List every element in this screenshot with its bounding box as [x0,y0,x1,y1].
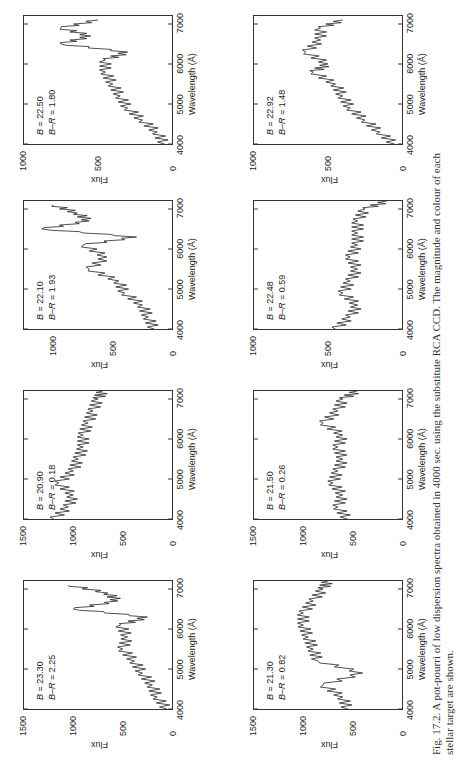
x-tick-label: 6000 [405,54,415,74]
y-tick-label: 0 [398,166,408,171]
x-tick-label: 5000 [405,659,415,679]
magnitude-annotation: B = 22.50 [35,96,45,135]
x-tick-label: 4000 [175,510,185,530]
x-tick-label: 6000 [405,239,415,259]
y-tick-label: 500 [118,531,128,546]
x-tick-label: 7000 [405,578,415,598]
x-tick-label: 7000 [405,388,415,408]
y-tick-label: 1000 [18,151,28,171]
y-tick-label: 0 [168,351,178,356]
magnitude-annotation: B = 22.10 [35,281,45,320]
spectrum-panel: 4000500060007000Wavelength (Å)10005000Fl… [245,190,445,370]
magnitude-annotation: B = 23.30 [35,661,45,700]
colour-annotation: B–R = 0.26 [277,465,287,510]
y-tick-label: 0 [168,166,178,171]
colour-annotation: B–R = 0.59 [277,275,287,320]
plot-area [253,15,403,145]
x-tick-label: 7000 [175,388,185,408]
colour-annotation: B–R = 1.80 [47,90,57,135]
x-tick-label: 4000 [405,510,415,530]
y-tick-label: 1000 [248,151,258,171]
y-tick-label: 500 [348,531,358,546]
y-tick-label: 500 [118,721,128,736]
y-axis-label: Flux [91,550,108,560]
spectrum-panel: 4000500060007000Wavelength (Å)1500100050… [245,380,445,560]
y-tick-label: 500 [93,156,103,171]
y-tick-label: 1500 [18,716,28,736]
colour-annotation: B–R = 1.48 [277,90,287,135]
x-axis-label: Wavelength (Å) [417,53,427,115]
x-tick-label: 6000 [175,619,185,639]
x-tick-label: 5000 [175,469,185,489]
y-axis-label: Flux [91,360,108,370]
y-tick-label: 0 [168,731,178,736]
figure: 4000500060007000Wavelength (Å)1500100050… [0,0,467,760]
y-axis-label: Flux [321,550,338,560]
y-tick-label: 0 [398,351,408,356]
x-tick-label: 5000 [405,469,415,489]
spectrum-panel: 4000500060007000Wavelength (Å)1500100050… [245,570,445,750]
x-tick-label: 4000 [175,320,185,340]
plot-area [253,200,403,330]
plot-area [23,390,173,520]
spectrum-panel: 4000500060007000Wavelength (Å)10005000Fl… [15,5,215,185]
y-tick-label: 500 [323,341,333,356]
plot-area [23,200,173,330]
x-tick-label: 5000 [175,94,185,114]
x-axis-label: Wavelength (Å) [187,238,197,300]
plot-area [23,15,173,145]
x-tick-label: 4000 [405,700,415,720]
colour-annotation: B–R = 2.25 [47,655,57,700]
y-tick-label: 0 [398,731,408,736]
x-tick-label: 7000 [175,578,185,598]
magnitude-annotation: B = 22.48 [265,281,275,320]
y-tick-label: 0 [398,541,408,546]
caption-line-2: stellar target are shown. [443,15,456,755]
x-axis-label: Wavelength (Å) [187,618,197,680]
plot-area [253,390,403,520]
y-tick-label: 1000 [48,336,58,356]
x-axis-label: Wavelength (Å) [417,428,427,490]
x-tick-label: 4000 [175,700,185,720]
y-tick-label: 500 [348,721,358,736]
y-tick-label: 500 [108,341,118,356]
y-axis-label: Flux [321,740,338,750]
x-tick-label: 5000 [175,659,185,679]
x-tick-label: 7000 [175,198,185,218]
magnitude-annotation: B = 21.50 [265,471,275,510]
magnitude-annotation: B = 21.30 [265,661,275,700]
x-axis-label: Wavelength (Å) [417,618,427,680]
y-tick-label: 1000 [298,526,308,546]
x-tick-label: 4000 [405,320,415,340]
spectrum-panel: 4000500060007000Wavelength (Å)10005000Fl… [245,5,445,185]
x-tick-label: 4000 [175,135,185,155]
colour-annotation: B–R = 1.93 [47,275,57,320]
y-tick-label: 500 [323,156,333,171]
y-tick-label: 1000 [68,526,78,546]
x-axis-label: Wavelength (Å) [187,53,197,115]
plot-area [253,580,403,710]
spectrum-panel: 4000500060007000Wavelength (Å)1500100050… [15,380,215,560]
x-tick-label: 7000 [405,13,415,33]
x-tick-label: 6000 [175,54,185,74]
y-tick-label: 1500 [18,526,28,546]
y-axis-label: Flux [91,175,108,185]
x-axis-label: Wavelength (Å) [187,428,197,490]
y-tick-label: 1500 [248,716,258,736]
y-tick-label: 1000 [298,716,308,736]
y-tick-label: 1500 [248,526,258,546]
y-axis-label: Flux [321,360,338,370]
x-tick-label: 4000 [405,135,415,155]
y-tick-label: 0 [168,541,178,546]
y-axis-label: Flux [91,740,108,750]
y-tick-label: 1000 [68,716,78,736]
x-tick-label: 5000 [405,279,415,299]
x-tick-label: 6000 [405,429,415,449]
spectrum-panel: 4000500060007000Wavelength (Å)1500100050… [15,570,215,750]
x-tick-label: 6000 [405,619,415,639]
x-axis-label: Wavelength (Å) [417,238,427,300]
x-tick-label: 5000 [405,94,415,114]
colour-annotation: B–R = 0.82 [277,655,287,700]
colour-annotation: B–R = 0.18 [47,465,57,510]
x-tick-label: 6000 [175,429,185,449]
